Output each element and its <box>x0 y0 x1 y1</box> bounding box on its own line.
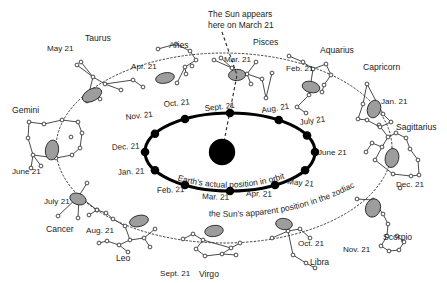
earth-position-dot <box>151 166 160 175</box>
earth-position-dot <box>301 166 310 175</box>
constellation-name-leo: Leo <box>116 253 131 263</box>
orbit-month-label: Jan. 21 <box>118 167 145 177</box>
star-node <box>188 49 192 53</box>
march-21-sightline <box>222 32 237 152</box>
star-node <box>190 64 194 68</box>
star-node <box>123 224 127 228</box>
star-node <box>380 145 384 149</box>
star-node <box>75 63 79 67</box>
constellation-name-capricorn: Capricorn <box>363 62 400 72</box>
sun-marker <box>209 139 235 165</box>
star-node <box>409 174 413 178</box>
star-node <box>183 65 187 69</box>
orbit-month-label: Dec. 21 <box>112 142 141 152</box>
constellation-link <box>262 79 266 98</box>
star-node <box>234 253 238 257</box>
star-node <box>264 96 268 100</box>
constellation-name-aries: Aries <box>169 40 189 50</box>
star-node <box>391 172 395 176</box>
star-node <box>104 211 108 215</box>
star-node <box>194 58 198 62</box>
star-node <box>295 105 299 109</box>
zodiac-diagram-canvas: Sept. 21Aug. 21July 21June 21May 21Apr. … <box>0 0 447 283</box>
constellation-link <box>28 122 29 138</box>
sun-appears-note-line-1: The Sun appears <box>208 9 272 19</box>
constellation-link <box>272 231 288 238</box>
star-node <box>386 222 390 226</box>
star-node <box>201 238 205 242</box>
star-node <box>379 244 383 248</box>
constellation-gemini <box>26 118 84 170</box>
earth-position-dot <box>303 131 312 140</box>
sun-appears-note-line-2: here on March 21 <box>208 20 274 30</box>
star-node <box>304 111 308 115</box>
star-node <box>128 238 132 242</box>
star-node <box>381 112 385 116</box>
star-node <box>91 75 95 79</box>
star-node <box>408 147 412 151</box>
zodiac-date-label-virgo: Sept. 21 <box>160 269 191 278</box>
constellation-link <box>203 240 231 248</box>
constellation-name-taurus: Taurus <box>85 33 111 43</box>
star-node <box>381 212 385 216</box>
star-node <box>191 232 195 236</box>
star-node <box>365 118 369 122</box>
zodiac-position-marker-libra <box>275 217 293 230</box>
star-node <box>229 246 233 250</box>
constellation-link <box>105 80 133 84</box>
zodiac-date-label-cancer: July 21 <box>44 197 70 206</box>
star-node <box>111 217 115 221</box>
orbit-month-label: Nov. 21 <box>125 110 154 122</box>
star-node <box>70 153 74 157</box>
star-node <box>105 239 109 243</box>
star-node <box>26 136 30 140</box>
star-node <box>249 82 253 86</box>
constellation-link <box>266 73 272 98</box>
star-node <box>97 241 101 245</box>
orbit-month-label: July 21 <box>299 114 326 127</box>
star-node <box>397 248 401 252</box>
constellation-link <box>205 254 222 256</box>
star-node <box>324 62 328 66</box>
star-node <box>76 216 80 220</box>
star-node <box>141 85 145 89</box>
star-node <box>181 237 185 241</box>
star-node <box>219 56 223 60</box>
star-node <box>387 249 391 253</box>
star-node <box>386 135 390 139</box>
star-node <box>27 120 31 124</box>
star-node <box>361 102 365 106</box>
zodiac-date-label-leo: Aug. 21 <box>86 226 114 235</box>
star-node <box>389 120 393 124</box>
constellation-link <box>393 174 411 176</box>
star-node <box>307 93 311 97</box>
constellation-name-gemini: Gemini <box>12 105 39 115</box>
star-node <box>365 82 369 86</box>
zodiac-orbit-diagram: Sept. 21Aug. 21July 21June 21May 21Apr. … <box>0 0 447 283</box>
star-node <box>287 54 291 58</box>
orbit-month-label: June 21 <box>318 148 347 157</box>
constellation-name-scorpio: Scorpio <box>383 232 412 242</box>
zodiac-date-label-aquarius: Feb. 21 <box>286 64 314 73</box>
constellation-link <box>62 120 78 122</box>
star-node <box>56 214 60 218</box>
zodiac-position-marker-taurus <box>80 85 104 105</box>
zodiac-date-label-scorpio: Nov. 21 <box>343 245 371 254</box>
constellation-name-virgo: Virgo <box>199 269 219 279</box>
star-node <box>142 236 146 240</box>
star-node <box>373 158 377 162</box>
constellation-link <box>247 74 262 79</box>
star-node <box>69 135 73 139</box>
constellation-link <box>358 104 363 119</box>
earth-position-dot <box>151 129 160 138</box>
orbit-month-label: May 21 <box>287 177 315 189</box>
star-node <box>131 78 135 82</box>
zodiac-position-marker-pisces <box>228 69 246 81</box>
star-node <box>254 60 258 64</box>
star-node <box>194 247 198 251</box>
orbit-month-label: Mar. 21 <box>202 192 230 202</box>
star-node <box>203 254 207 258</box>
star-node <box>356 117 360 121</box>
zodiac-date-label-taurus: May 21 <box>47 44 74 53</box>
star-node <box>322 83 326 87</box>
